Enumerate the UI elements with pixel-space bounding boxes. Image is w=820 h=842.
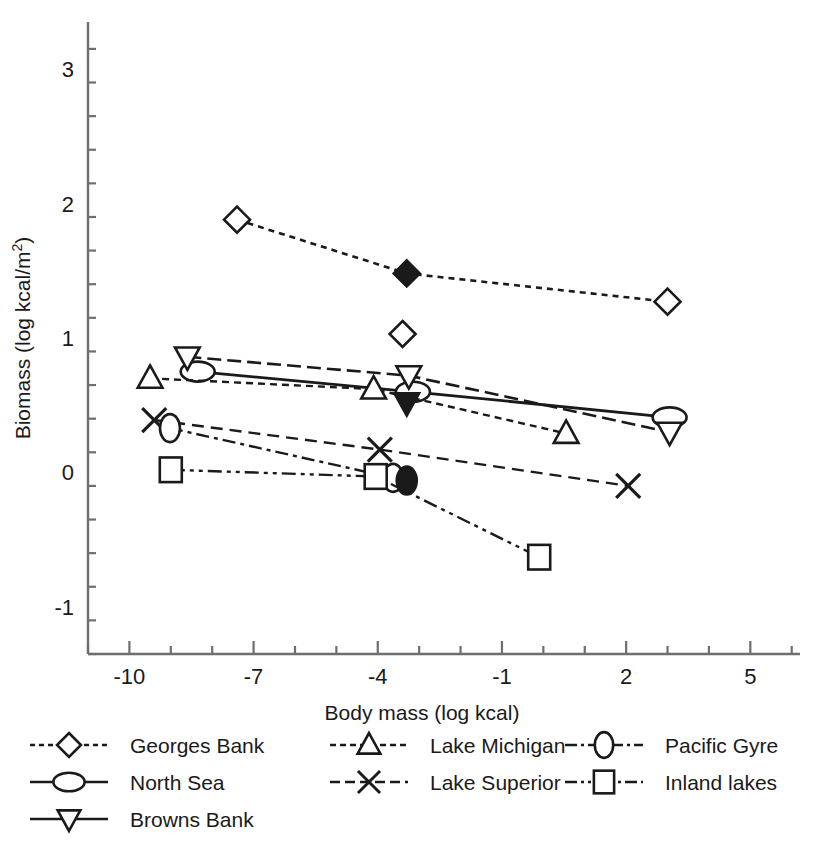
- legend-item-pacific-gyre: Pacific Gyre: [565, 732, 778, 758]
- series-trend-line: [171, 470, 539, 557]
- series-layer: [138, 207, 687, 570]
- data-point-diamond: [57, 733, 81, 757]
- legend-item-north-sea: North Sea: [30, 771, 225, 794]
- data-point-diamond: [655, 289, 681, 315]
- x-axis-tick-label: -4: [368, 664, 388, 689]
- legend-item-inland-lakes: Inland lakes: [565, 771, 777, 794]
- legend-item-browns-bank: Browns Bank: [30, 808, 254, 831]
- data-point-square: [594, 771, 614, 794]
- biomass-body-mass-scatter-chart: -10123-10-7-4-125 Body mass (log kcal)Bi…: [0, 0, 820, 842]
- legend-label: North Sea: [130, 771, 225, 794]
- data-point-square: [160, 457, 182, 482]
- y-axis-title: Biomass (log kcal/m2): [9, 237, 34, 440]
- data-point-ellipse: [53, 773, 84, 791]
- legend-label: Inland lakes: [665, 771, 777, 794]
- series-trend-line: [237, 220, 668, 302]
- legend-label: Browns Bank: [130, 808, 254, 831]
- y-axis-tick-label: -1: [54, 595, 74, 620]
- data-point-diamond: [390, 321, 416, 347]
- x-axis-tick-label: -1: [492, 664, 512, 689]
- legend-item-lake-michigan: Lake Michigan: [330, 733, 565, 757]
- y-axis-tick-label: 0: [62, 460, 74, 485]
- x-axis-tick-label: -7: [244, 664, 264, 689]
- legend-label: Pacific Gyre: [665, 734, 778, 757]
- y-axis-tick-label: 3: [62, 57, 74, 82]
- x-axis-tick-label: 2: [620, 664, 632, 689]
- axis-labels-layer: Body mass (log kcal)Biomass (log kcal/m2…: [9, 237, 519, 724]
- y-axis-tick-label: 2: [62, 192, 74, 217]
- series-trend-line: [198, 372, 670, 418]
- series-trend-line: [170, 428, 393, 478]
- legend-label: Lake Michigan: [430, 734, 565, 757]
- figure-container: -10123-10-7-4-125 Body mass (log kcal)Bi…: [0, 0, 820, 842]
- data-point-ellipse-v: [397, 467, 417, 495]
- series-north-sea: [181, 362, 687, 428]
- data-point-ellipse-v: [160, 414, 180, 442]
- data-point-diamond: [394, 260, 420, 286]
- legend-label: Georges Bank: [130, 734, 265, 757]
- series-inland-lakes: [160, 457, 550, 569]
- data-point-square: [365, 464, 387, 489]
- legend-item-lake-superior: Lake Superior: [330, 771, 561, 794]
- legend-label: Lake Superior: [430, 771, 561, 794]
- legend-item-georges-bank: Georges Bank: [30, 733, 265, 757]
- x-axis-title: Body mass (log kcal): [325, 701, 520, 724]
- axes-layer: -10123-10-7-4-125: [54, 22, 800, 689]
- data-point-triangle-down: [657, 423, 682, 445]
- x-axis-tick-label: 5: [744, 664, 756, 689]
- x-axis-tick-label: -10: [113, 664, 145, 689]
- data-point-triangle-down: [58, 810, 81, 831]
- data-point-ellipse-v: [595, 732, 613, 758]
- chart-legend: Georges BankNorth SeaBrowns BankLake Mic…: [30, 732, 778, 831]
- data-point-triangle-up: [358, 733, 381, 754]
- y-axis-tick-label: 1: [62, 326, 74, 351]
- data-point-square: [528, 545, 550, 570]
- data-point-diamond: [224, 207, 250, 233]
- data-point-triangle-up: [138, 365, 163, 387]
- series-georges-bank: [224, 207, 681, 347]
